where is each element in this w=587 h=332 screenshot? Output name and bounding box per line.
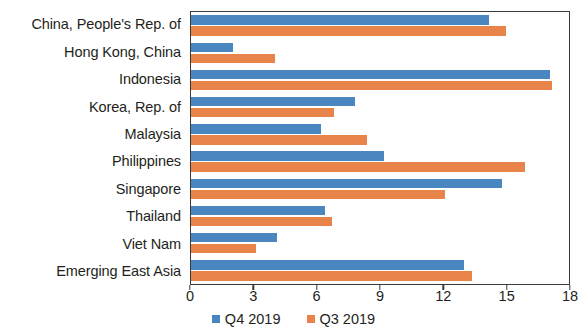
x-axis-tick-labels: 0369121518	[190, 289, 570, 311]
x-axis-tick-label: 3	[249, 289, 257, 304]
category-label: Thailand	[0, 203, 186, 230]
legend-item-q3: Q3 2019	[307, 312, 376, 327]
category-label: Singapore	[0, 175, 186, 202]
bar-q3-2019	[191, 217, 332, 227]
bar-q4-2019	[191, 179, 502, 189]
category-label: Philippines	[0, 148, 186, 175]
bar-q3-2019	[191, 244, 256, 254]
bar-q3-2019	[191, 26, 506, 36]
bar-q3-2019	[191, 54, 275, 64]
bar-q4-2019	[191, 43, 233, 53]
bar-q4-2019	[191, 233, 277, 243]
x-axis-tick-label: 0	[186, 289, 194, 304]
x-axis-tick-label: 15	[499, 289, 515, 304]
bar-group	[191, 148, 569, 175]
category-label: Malaysia	[0, 121, 186, 148]
bar-group	[191, 12, 569, 39]
bar-group	[191, 66, 569, 93]
bar-q3-2019	[191, 81, 552, 91]
bar-chart: China, People's Rep. of Hong Kong, China…	[0, 0, 587, 332]
bar-q3-2019	[191, 162, 525, 172]
bars-layer	[191, 12, 569, 284]
category-label: China, People's Rep. of	[0, 11, 186, 38]
category-label: Indonesia	[0, 66, 186, 93]
bar-q4-2019	[191, 124, 321, 134]
x-axis-tick-label: 9	[376, 289, 384, 304]
bar-q3-2019	[191, 190, 445, 200]
chart-legend: Q4 2019 Q3 2019	[0, 312, 587, 327]
legend-swatch-icon	[212, 315, 220, 323]
plot-area	[190, 11, 570, 285]
bar-q4-2019	[191, 97, 355, 107]
bar-group	[191, 39, 569, 66]
category-axis: China, People's Rep. of Hong Kong, China…	[0, 11, 186, 285]
bar-q4-2019	[191, 151, 384, 161]
bar-q3-2019	[191, 135, 367, 145]
bar-q4-2019	[191, 70, 550, 80]
bar-q4-2019	[191, 260, 464, 270]
bar-group	[191, 121, 569, 148]
bar-q3-2019	[191, 108, 334, 118]
bar-group	[191, 230, 569, 257]
category-label: Emerging East Asia	[0, 258, 186, 285]
legend-label: Q4 2019	[225, 312, 281, 327]
legend-label: Q3 2019	[320, 312, 376, 327]
bar-group	[191, 175, 569, 202]
bar-q4-2019	[191, 206, 325, 216]
x-axis-tick-label: 12	[435, 289, 451, 304]
bar-group	[191, 94, 569, 121]
bar-group	[191, 202, 569, 229]
category-label: Viet Nam	[0, 230, 186, 257]
bar-group	[191, 257, 569, 284]
bar-q4-2019	[191, 15, 489, 25]
category-label: Hong Kong, China	[0, 38, 186, 65]
legend-swatch-icon	[307, 315, 315, 323]
x-axis-tick-label: 18	[562, 289, 578, 304]
category-label: Korea, Rep. of	[0, 93, 186, 120]
legend-item-q4: Q4 2019	[212, 312, 281, 327]
x-axis-tick-label: 6	[313, 289, 321, 304]
bar-q3-2019	[191, 271, 472, 281]
